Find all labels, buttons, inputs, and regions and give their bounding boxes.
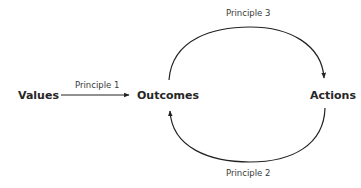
- edge-label-principle-1: Principle 1: [75, 80, 119, 91]
- node-actions: Actions: [310, 89, 356, 103]
- principles-diagram: Values Outcomes Actions Principle 1 Prin…: [0, 0, 361, 188]
- edge-label-principle-2: Principle 2: [226, 168, 270, 179]
- edge-label-principle-3: Principle 3: [226, 8, 270, 19]
- node-values: Values: [18, 89, 59, 103]
- arc-outcomes-to-actions: [169, 27, 324, 80]
- node-outcomes: Outcomes: [137, 89, 199, 103]
- arc-actions-to-outcomes: [170, 108, 325, 162]
